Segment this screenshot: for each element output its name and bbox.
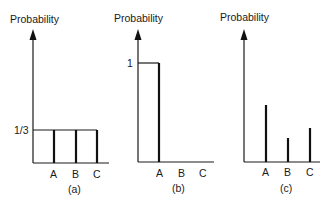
x-tick-B-c: B [284, 166, 291, 178]
panel-a: Probability 1/3 A B C (a) [10, 13, 109, 195]
panel-caption-c: (c) [280, 182, 292, 194]
y-axis-label-a: Probability [10, 13, 60, 25]
x-tick-A-c: A [262, 166, 269, 178]
x-tick-A-a: A [50, 168, 57, 180]
panel-b: Probability 1 A B C (b) [114, 12, 214, 194]
panel-caption-a: (a) [68, 183, 81, 195]
x-tick-C-b: C [199, 167, 207, 179]
x-tick-B-b: B [178, 167, 185, 179]
y-tick-label-b: 1 [127, 57, 133, 69]
probability-distributions-figure: Probability 1/3 A B C (a) Probability 1 … [0, 0, 328, 205]
y-axis-arrow-icon [135, 29, 142, 40]
panel-caption-b: (b) [172, 182, 185, 194]
x-tick-A-b: A [156, 167, 163, 179]
y-axis-label-c: Probability [220, 11, 270, 23]
x-tick-C-a: C [93, 168, 101, 180]
x-tick-C-c: C [306, 166, 314, 178]
y-axis-label-b: Probability [114, 12, 164, 24]
y-axis-arrow-icon [241, 29, 248, 40]
y-axis-arrow-icon [30, 29, 37, 40]
y-tick-label-a: 1/3 [14, 124, 29, 136]
x-tick-B-a: B [72, 168, 79, 180]
panel-c: Probability A B C (c) [220, 11, 320, 194]
